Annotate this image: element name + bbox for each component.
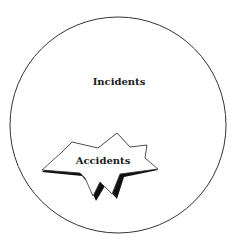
incidents-circle (10, 17, 226, 233)
incidents-label: Incidents (93, 76, 146, 87)
accidents-label: Accidents (75, 155, 131, 166)
venn-diagram: Incidents Accidents (0, 0, 236, 245)
